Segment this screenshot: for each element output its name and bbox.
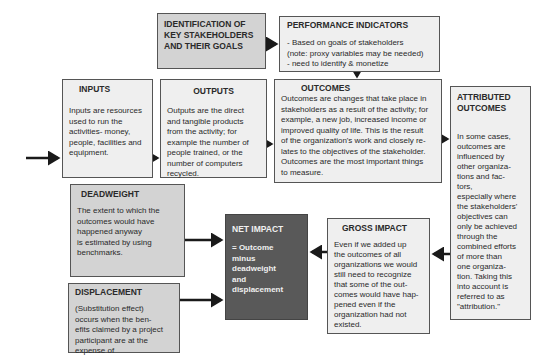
- outputs-box: OUTPUTS Outputs are the direct and tangi…: [160, 79, 267, 178]
- gross-impact-box: GROSS IMPACT Even if we added up the out…: [327, 218, 430, 334]
- deadweight-box: DEADWEIGHT The extent to which the outco…: [70, 184, 185, 277]
- identification-box: IDENTIFICATION OF KEY STAKEHOLDERS AND T…: [157, 13, 266, 69]
- inputs-body: Inputs are resources used to run the act…: [69, 106, 146, 159]
- attributed-outcomes-box: ATTRIBUTED OUTCOMES In some cases, outco…: [450, 86, 531, 320]
- outputs-title: OUTPUTS: [167, 86, 260, 97]
- net-impact-box: NET IMPACT = Outcome minus deadweight an…: [225, 214, 308, 320]
- outcomes-body: Outcomes are changes that take place in …: [281, 94, 435, 178]
- identification-title: IDENTIFICATION OF KEY STAKEHOLDERS AND T…: [164, 19, 259, 52]
- inputs-title: INPUTS: [69, 84, 146, 95]
- deadweight-title: DEADWEIGHT: [77, 189, 178, 200]
- displacement-title: DISPLACEMENT: [75, 287, 173, 298]
- net-impact-title: NET IMPACT: [232, 224, 301, 235]
- outputs-body: Outputs are the direct and tangible prod…: [167, 106, 260, 180]
- performance-indicators-title: PERFORMANCE INDICATORS: [287, 20, 433, 31]
- performance-indicators-box: PERFORMANCE INDICATORS - Based on goals …: [279, 16, 440, 72]
- deadweight-body: The extent to which the outcomes would h…: [77, 206, 178, 259]
- performance-indicators-body: - Based on goals of stakeholders (note: …: [287, 38, 433, 70]
- attributed-outcomes-title: ATTRIBUTED OUTCOMES: [457, 92, 524, 114]
- net-impact-body: = Outcome minus deadweight and displacem…: [232, 243, 301, 296]
- outcomes-title: OUTCOMES: [281, 83, 435, 94]
- outcomes-box: OUTCOMES Outcomes are changes that take …: [274, 79, 442, 183]
- inputs-box: INPUTS Inputs are resources used to run …: [62, 79, 153, 178]
- displacement-box: DISPLACEMENT (Substitution effect) occur…: [68, 283, 180, 353]
- gross-impact-body: Even if we added up the outcomes of all …: [334, 240, 423, 330]
- displacement-body: (Substitution effect) occurs when the be…: [75, 304, 173, 357]
- attributed-outcomes-body: In some cases, outcomes are influenced b…: [457, 132, 524, 312]
- gross-impact-title: GROSS IMPACT: [334, 223, 423, 234]
